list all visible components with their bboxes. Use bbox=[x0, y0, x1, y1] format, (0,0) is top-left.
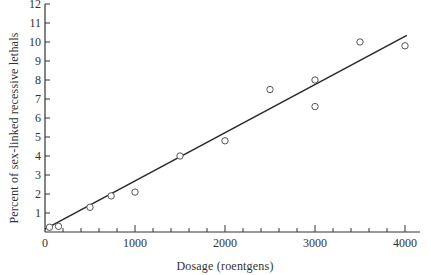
data-point-marker bbox=[222, 138, 228, 144]
y-tick-label: 12 bbox=[29, 0, 41, 11]
y-axis-ticks: 123456789101112 bbox=[29, 0, 50, 220]
y-tick-label: 11 bbox=[29, 16, 41, 30]
y-tick-label: 5 bbox=[35, 130, 41, 144]
data-point-marker bbox=[312, 77, 318, 83]
data-point-marker bbox=[177, 153, 183, 159]
axes bbox=[45, 4, 420, 232]
x-axis-ticks: 01000200030004000 bbox=[42, 225, 417, 250]
fit-line bbox=[45, 35, 407, 229]
data-point-marker bbox=[402, 43, 408, 49]
data-point-marker bbox=[46, 224, 52, 230]
scatter-chart: 01000200030004000 123456789101112 Dosage… bbox=[0, 0, 431, 275]
y-tick-label: 8 bbox=[35, 73, 41, 87]
y-tick-label: 6 bbox=[35, 111, 41, 125]
data-point-marker bbox=[132, 189, 138, 195]
y-tick-label: 4 bbox=[35, 149, 41, 163]
data-points bbox=[46, 39, 408, 231]
y-tick-label: 9 bbox=[35, 54, 41, 68]
x-axis-title: Dosage (roentgens) bbox=[176, 259, 273, 273]
x-tick-label: 3000 bbox=[303, 236, 327, 250]
y-tick-label: 2 bbox=[35, 187, 41, 201]
x-tick-label: 0 bbox=[42, 236, 48, 250]
x-tick-label: 4000 bbox=[393, 236, 417, 250]
y-tick-label: 3 bbox=[35, 168, 41, 182]
x-tick-label: 1000 bbox=[123, 236, 147, 250]
data-point-marker bbox=[267, 86, 273, 92]
data-point-marker bbox=[108, 193, 114, 199]
y-axis-title: Percent of sex-linked recessive lethals bbox=[7, 32, 21, 223]
y-tick-label: 10 bbox=[29, 35, 41, 49]
data-point-marker bbox=[55, 223, 61, 229]
regression-line bbox=[45, 35, 407, 229]
x-tick-label: 2000 bbox=[213, 236, 237, 250]
data-point-marker bbox=[87, 204, 93, 210]
y-tick-label: 7 bbox=[35, 92, 41, 106]
y-tick-label: 1 bbox=[35, 206, 41, 220]
data-point-marker bbox=[357, 39, 363, 45]
data-point-marker bbox=[312, 103, 318, 109]
